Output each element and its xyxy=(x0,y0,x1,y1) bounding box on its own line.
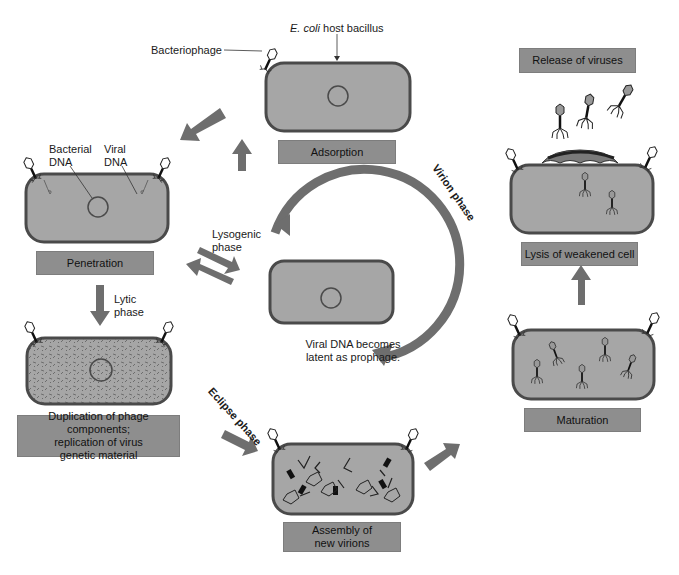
bacteriophage-label: Bacteriophage xyxy=(151,44,222,57)
viral-dna-label: ViralDNA xyxy=(104,143,127,169)
cell-adsorption xyxy=(224,34,410,131)
assembly-line1: Assembly of xyxy=(312,524,372,537)
viral-dna-line1: Viral xyxy=(104,143,127,156)
duplication-line1: Duplication of phage components; xyxy=(18,410,179,436)
lysogenic-phase-label: Lysogenicphase xyxy=(212,228,261,254)
host-bacillus-label: E. coli host bacillus xyxy=(290,22,384,35)
lysogenic-line2: phase xyxy=(212,241,261,254)
host-type: host bacillus xyxy=(320,22,384,34)
lytic-phase-label: Lyticphase xyxy=(114,293,144,319)
cell-penetration xyxy=(21,155,173,242)
cell-duplication xyxy=(22,319,176,404)
assembly-line2: new virions xyxy=(314,537,369,550)
stage-label-maturation: Maturation xyxy=(524,408,641,432)
lytic-line2: phase xyxy=(114,306,144,319)
stage-label-penetration: Penetration xyxy=(36,251,154,275)
prophage-line2: latent as prophage. xyxy=(298,351,408,364)
cell-prophage xyxy=(270,261,393,323)
bacterial-dna-label: BacterialDNA xyxy=(49,143,92,169)
lysogenic-line1: Lysogenic xyxy=(212,228,261,241)
duplication-line3: genetic material xyxy=(60,449,138,462)
duplication-line2: replication of virus xyxy=(54,436,143,449)
stage-label-assembly: Assembly of new virions xyxy=(283,522,401,552)
host-species-name: E. coli xyxy=(290,22,320,34)
viral-dna-line2: DNA xyxy=(104,156,127,169)
stage-label-release: Release of viruses xyxy=(519,48,636,73)
stage-label-duplication: Duplication of phage components; replica… xyxy=(17,415,180,457)
prophage-line1: Viral DNA becomes xyxy=(298,338,408,351)
bacterial-dna-line1: Bacterial xyxy=(49,143,92,156)
cell-lysis xyxy=(503,81,660,233)
cell-assembly xyxy=(265,426,421,514)
stage-label-adsorption: Adsorption xyxy=(278,140,396,164)
stage-label-lysis: Lysis of weakened cell xyxy=(521,242,638,266)
prophage-caption: Viral DNA becomeslatent as prophage. xyxy=(298,338,408,364)
lytic-line1: Lytic xyxy=(114,293,144,306)
diagram-canvas xyxy=(0,0,679,575)
bacterial-dna-line2: DNA xyxy=(49,156,92,169)
cell-maturation xyxy=(505,310,662,399)
